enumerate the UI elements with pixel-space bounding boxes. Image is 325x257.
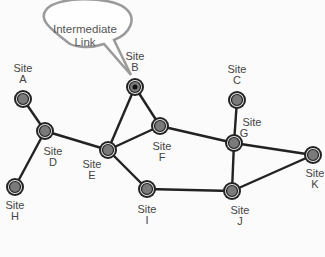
node-core (232, 95, 243, 106)
node-core (40, 126, 51, 137)
callout-bubble: Intermediate Link (44, 0, 132, 75)
site-label-e-line-2: E (88, 169, 95, 181)
site-node-c[interactable]: SiteC (228, 63, 247, 109)
site-label-j-line-2: J (237, 215, 243, 227)
site-label-i-line-2: I (145, 214, 148, 226)
node-core (155, 121, 166, 132)
site-node-h[interactable]: SiteH (6, 178, 25, 222)
site-node-e[interactable]: SiteE (83, 141, 117, 181)
site-label-b-line-2: B (131, 61, 138, 73)
site-label-d-line-2: D (49, 156, 57, 168)
site-node-f[interactable]: SiteF (151, 117, 171, 163)
edge-i-j (147, 189, 232, 191)
site-label-a-line-2: A (19, 73, 27, 85)
site-label-f-line-2: F (159, 151, 166, 163)
node-highlight-dot (133, 85, 138, 90)
site-node-i[interactable]: SiteI (138, 180, 157, 226)
site-label-h-line-2: H (11, 210, 19, 222)
edges-layer (15, 87, 313, 191)
node-core (142, 184, 153, 195)
site-node-j[interactable]: SiteJ (223, 182, 249, 227)
site-node-k[interactable]: SiteK (304, 146, 324, 190)
site-node-a[interactable]: SiteA (14, 62, 33, 108)
edge-g-k (234, 143, 313, 155)
node-core (103, 145, 114, 156)
edge-j-k (232, 155, 313, 191)
nodes-layer: SiteASiteBSiteCSiteDSiteESiteFSiteGSiteH… (6, 50, 325, 227)
node-core (227, 186, 238, 197)
node-core (18, 94, 29, 105)
callout-line-1: Intermediate (53, 23, 117, 35)
site-label-k-line-2: K (311, 178, 319, 190)
node-core (308, 150, 319, 161)
site-label-c-line-2: C (233, 74, 241, 86)
callout-line-2: Link (74, 36, 95, 48)
edge-d-h (15, 131, 45, 187)
node-core (229, 138, 240, 149)
site-label-g-line-2: G (240, 127, 249, 139)
node-core (10, 182, 21, 193)
network-diagram: Intermediate Link SiteASiteBSiteCSiteDSi… (0, 0, 325, 257)
site-node-d[interactable]: SiteD (36, 122, 62, 168)
